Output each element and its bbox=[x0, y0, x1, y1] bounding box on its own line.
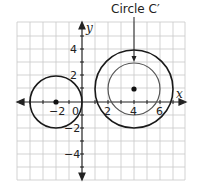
y-tick-label: 2 bbox=[70, 69, 77, 82]
y-axis-label: y bbox=[85, 21, 93, 35]
x-tick-label: 6 bbox=[156, 105, 163, 118]
x-tick-label: −2 bbox=[49, 105, 65, 118]
center-point-right bbox=[131, 86, 136, 91]
annotation-pointer bbox=[132, 17, 137, 62]
y-tick-label: −2 bbox=[64, 122, 80, 135]
x-tick-label: 4 bbox=[130, 105, 137, 118]
y-tick-label: 4 bbox=[70, 43, 77, 56]
y-tick-label: −4 bbox=[64, 148, 80, 161]
x-tick-label: 0 bbox=[72, 105, 79, 118]
x-axis-label: x bbox=[176, 87, 183, 101]
coordinate-plane-diagram: Circle C′ x y −2 0 2 4 6 4 2 −2 −4 bbox=[0, 0, 199, 189]
center-point-left bbox=[53, 99, 58, 104]
x-tick-label: 2 bbox=[104, 105, 111, 118]
circle-c-prime-label: Circle C′ bbox=[111, 2, 160, 16]
